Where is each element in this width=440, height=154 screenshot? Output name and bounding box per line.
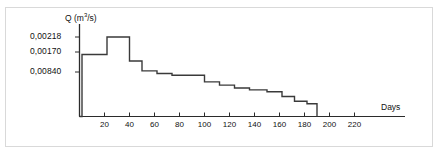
x-tick-label-8: 180 <box>293 120 317 129</box>
plot-area <box>0 0 440 154</box>
axes <box>75 24 405 117</box>
x-tick-label-1: 40 <box>118 120 142 129</box>
x-tick-label-3: 80 <box>168 120 192 129</box>
x-tick-label-7: 160 <box>268 120 292 129</box>
x-tick-label-6: 140 <box>243 120 267 129</box>
x-tick-label-0: 20 <box>93 120 117 129</box>
x-tick-label-5: 120 <box>218 120 242 129</box>
y-axis-ticks <box>75 37 80 72</box>
x-tick-label-4: 100 <box>193 120 217 129</box>
x-tick-label-9: 200 <box>318 120 342 129</box>
x-tick-label-2: 60 <box>143 120 167 129</box>
chart-figure: Q (m3/s) 0,00218 0,00170 0,00840 Days 20… <box>0 0 440 154</box>
x-tick-label-10: 220 <box>343 120 367 129</box>
discharge-step-series <box>80 37 318 117</box>
